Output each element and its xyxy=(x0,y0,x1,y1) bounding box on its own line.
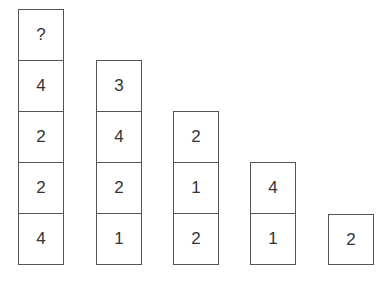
cell: 2 xyxy=(173,111,219,163)
column-4: 4 1 xyxy=(250,162,296,265)
cell: 1 xyxy=(250,213,296,265)
cell: 2 xyxy=(18,162,64,214)
cell: 1 xyxy=(173,162,219,214)
cell: 1 xyxy=(96,213,142,265)
column-2: 3 4 2 1 xyxy=(96,60,142,265)
column-5: 2 xyxy=(328,214,374,265)
cell: 2 xyxy=(96,162,142,214)
cell-unknown: ? xyxy=(18,9,64,61)
cell: 2 xyxy=(328,214,374,265)
cell: 4 xyxy=(18,60,64,112)
cell: 4 xyxy=(250,162,296,214)
column-3: 2 1 2 xyxy=(173,111,219,265)
cell: 2 xyxy=(173,213,219,265)
column-1: ? 4 2 2 4 xyxy=(18,9,64,265)
cell: 3 xyxy=(96,60,142,112)
cell: 4 xyxy=(96,111,142,163)
cell: 2 xyxy=(18,111,64,163)
cell: 4 xyxy=(18,213,64,265)
